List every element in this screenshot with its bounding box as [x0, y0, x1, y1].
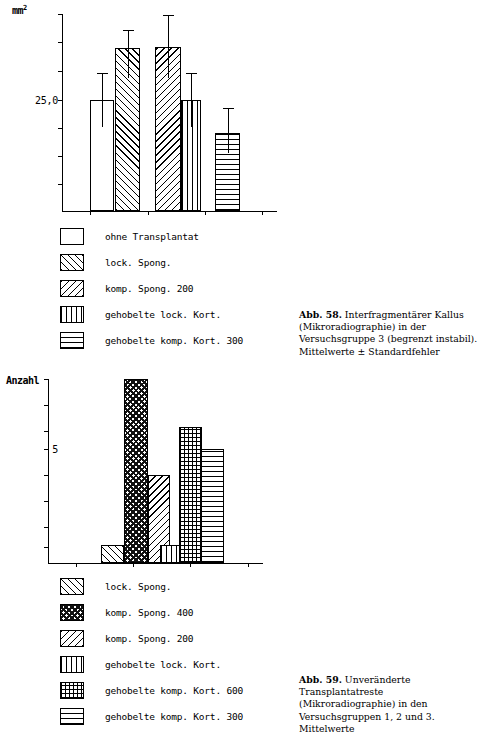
legend-item: gehobelte komp. Kort. 300 — [60, 332, 290, 358]
legend-swatch-grid — [60, 682, 84, 699]
legend-label: gehobelte komp. Kort. 300 — [105, 335, 243, 346]
legend-label: komp. Spong. 200 — [105, 283, 193, 294]
error-bar-line — [102, 73, 103, 127]
legend-label: gehobelte komp. Kort. 600 — [105, 685, 243, 696]
error-bar-line — [168, 15, 169, 78]
x-axis-tick — [190, 564, 191, 567]
y-axis-line — [48, 379, 49, 563]
legend-item: lock. Spong. — [60, 254, 290, 280]
x-axis-tick — [148, 212, 149, 215]
legend-label: komp. Spong. 200 — [105, 633, 193, 644]
error-bar-cap-top — [163, 15, 174, 16]
y-axis-tick — [58, 42, 63, 43]
legend-swatch-horizontal-lines — [60, 708, 84, 725]
legend-item: gehobelte lock. Kort. — [60, 656, 290, 682]
x-axis-tick — [262, 212, 263, 215]
legend-swatch-checker — [60, 604, 84, 621]
y-axis-tick — [44, 547, 49, 548]
legend-abb58: ohne Transplantat lock. Spong. komp. Spo… — [60, 228, 290, 358]
bar-abb59-lock-spong — [101, 545, 124, 563]
y-axis-tick — [58, 100, 63, 101]
y-axis-tick — [58, 156, 63, 157]
y-axis-tick — [58, 14, 63, 15]
error-bar-cap-top — [123, 30, 134, 31]
legend-item: gehobelte lock. Kort. — [60, 306, 290, 332]
legend-label: lock. Spong. — [105, 581, 171, 592]
chart-abb59: Anzahl 5 — [0, 370, 290, 570]
bar-abb59-komp-spong-400 — [124, 379, 148, 563]
x-axis-tick — [133, 564, 134, 567]
legend-item: lock. Spong. — [60, 578, 290, 604]
legend-swatch-horizontal-lines — [60, 332, 84, 349]
caption-abb58-number: Abb. 58. — [299, 309, 342, 320]
bar-abb59-gehobelte-komp-kort-300 — [201, 449, 224, 563]
legend-label: gehobelte lock. Kort. — [105, 309, 221, 320]
bar-abb59-gehobelte-komp-kort-600 — [179, 427, 202, 563]
error-bar-line — [228, 108, 229, 153]
error-bar-cap-top — [97, 73, 108, 74]
legend-item: gehobelte komp. Kort. 600 — [60, 682, 290, 708]
legend-item: komp. Spong. 400 — [60, 604, 290, 630]
caption-abb58: Abb. 58. Interfragmentärer Kallus (Mikro… — [299, 309, 479, 358]
legend-abb59: lock. Spong. komp. Spong. 400 komp. Spon… — [60, 578, 290, 734]
legend-swatch-backward-hatch — [60, 280, 84, 297]
y-axis-tick — [58, 128, 63, 129]
legend-swatch-backward-hatch — [60, 630, 84, 647]
y-axis-tick — [44, 527, 49, 528]
x-axis-tick — [205, 212, 206, 215]
legend-swatch-dots — [60, 228, 84, 245]
legend-label: gehobelte komp. Kort. 300 — [105, 711, 243, 722]
x-axis-line — [48, 563, 263, 564]
y-axis-tick — [58, 184, 63, 185]
legend-label: lock. Spong. — [105, 257, 171, 268]
x-axis-tick — [76, 564, 77, 567]
x-axis-line — [62, 211, 277, 212]
error-bar-cap-top — [223, 108, 234, 109]
y-axis-title-text: mm — [12, 5, 23, 16]
x-axis-tick — [248, 564, 249, 567]
y-axis-tick — [44, 475, 49, 476]
y-axis-tick — [44, 501, 49, 502]
caption-abb59: Abb. 59. Unveränderte Transplantatreste … — [299, 674, 479, 735]
y-axis-title-anzahl: Anzahl — [6, 375, 39, 386]
error-bar-line — [128, 30, 129, 78]
legend-label: komp. Spong. 400 — [105, 607, 193, 618]
legend-item: komp. Spong. 200 — [60, 630, 290, 656]
y-axis-line — [62, 14, 63, 212]
legend-label: gehobelte lock. Kort. — [105, 659, 221, 670]
legend-swatch-forward-hatch — [60, 578, 84, 595]
y-axis-tick — [58, 71, 63, 72]
y-axis-title-mm2: mm2 — [12, 4, 27, 16]
chart-abb58: mm2 25,0 — [0, 0, 290, 225]
legend-swatch-forward-hatch — [60, 254, 84, 271]
legend-item: ohne Transplantat — [60, 228, 290, 254]
y-axis-title-exponent: 2 — [23, 4, 27, 12]
legend-label: ohne Transplantat — [105, 231, 199, 242]
caption-abb59-number: Abb. 59. — [299, 674, 342, 685]
figure-page: mm2 25,0 — [0, 0, 484, 751]
y-axis-tick — [44, 449, 49, 450]
y-tick-label-5: 5 — [18, 444, 58, 455]
error-bar-cap-top — [186, 73, 197, 74]
y-tick-label-25: 25,0 — [18, 95, 58, 106]
y-axis-tick — [44, 431, 49, 432]
y-axis-tick — [44, 405, 49, 406]
legend-item: komp. Spong. 200 — [60, 280, 290, 306]
legend-item: gehobelte komp. Kort. 300 — [60, 708, 290, 734]
y-axis-tick — [44, 379, 49, 380]
error-bar-line — [191, 73, 192, 127]
legend-swatch-vertical-lines — [60, 656, 84, 673]
legend-swatch-vertical-lines — [60, 306, 84, 323]
x-axis-tick — [90, 212, 91, 215]
